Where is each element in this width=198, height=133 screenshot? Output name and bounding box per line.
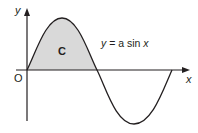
y-axis-arrow-icon bbox=[24, 8, 30, 16]
equation-middle: = a sin bbox=[106, 37, 143, 49]
shaded-region-c bbox=[27, 18, 97, 70]
curve-equation-label: y = a sin x bbox=[100, 37, 149, 49]
x-axis-label: x bbox=[185, 73, 192, 85]
equation-x: x bbox=[142, 37, 149, 49]
y-axis-label: y bbox=[14, 4, 22, 16]
origin-label: O bbox=[14, 72, 23, 84]
sine-graph: y O x C y = a sin x bbox=[0, 0, 198, 133]
region-c-label: C bbox=[58, 45, 66, 57]
